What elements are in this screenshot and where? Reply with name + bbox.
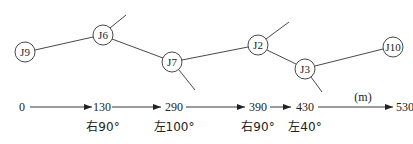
mark-290: 290 [165,100,183,114]
segment-j2-j3 [267,50,296,64]
mark-390: 390 [249,100,267,114]
segment-j7-j2 [182,47,248,60]
segment-j3-j10 [315,49,383,66]
node-j3: J3 [295,59,315,79]
node-j2: J2 [248,35,268,55]
pipe-segments [35,15,383,92]
mark-0: 0 [19,100,25,114]
mark-130: 130 [93,100,111,114]
node-j9: J9 [15,42,35,62]
node-label: J7 [167,56,177,68]
segment-j9-j6 [35,37,93,50]
branch-j2 [266,22,289,39]
branch-j7 [179,70,195,90]
node-label: J6 [98,29,108,41]
segment-j6-j7 [112,39,163,58]
pipeline-diagram: J9 J6 J7 J2 J3 J10 0 130 290 390 430 530… [0,0,413,144]
unit-label: (m) [354,90,371,104]
node-j6: J6 [93,25,113,45]
node-label: J3 [300,63,310,75]
node-j7: J7 [162,52,182,72]
node-label: J2 [253,39,263,51]
mark-530: 530 [396,100,413,114]
branch-j6 [110,15,126,28]
turn-label: 右90° [86,119,119,134]
turn-label: 右90° [241,119,274,134]
mark-430: 430 [296,100,314,114]
node-j10: J10 [383,37,403,57]
turn-labels: 右90° 左100° 右90° 左40° [86,119,321,134]
chainage-marks: 0 130 290 390 430 530 (m) [19,90,413,114]
turn-label: 左40° [288,119,321,134]
branch-j3 [311,77,322,92]
turn-label: 左100° [154,119,195,134]
node-label: J9 [20,46,30,58]
node-label: J10 [385,41,401,53]
